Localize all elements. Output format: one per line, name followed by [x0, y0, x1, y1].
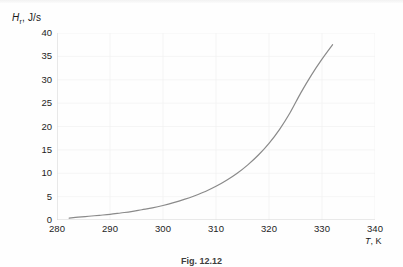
x-tick-label: 330	[305, 224, 339, 234]
y-axis-label: Hr, J/s	[12, 12, 41, 25]
y-tick-label: 10	[26, 168, 52, 178]
x-tick-label: 280	[40, 224, 74, 234]
y-axis-tick-labels: 0510152025303540	[26, 33, 52, 220]
y-tick-label: 30	[26, 75, 52, 85]
y-tick-label: 20	[26, 122, 52, 132]
x-tick-label: 310	[199, 224, 233, 234]
x-tick-label: 320	[252, 224, 286, 234]
y-tick-label: 5	[26, 192, 52, 202]
data-series-line	[69, 45, 332, 218]
y-tick-label: 35	[26, 51, 52, 61]
x-axis-tick-labels: 280290300310320330340	[57, 224, 375, 238]
chart-canvas	[57, 33, 375, 220]
plot-area	[57, 33, 375, 220]
x-tick-label: 300	[146, 224, 180, 234]
figure-container: Hr, J/s 0510152025303540 280290300310320…	[0, 0, 403, 267]
x-axis-unit: , K	[371, 236, 382, 246]
y-tick-label: 25	[26, 98, 52, 108]
page-top-rule	[0, 0, 403, 3]
x-tick-label: 290	[93, 224, 127, 234]
x-axis-label: T, K	[365, 236, 382, 246]
figure-caption: Fig. 12.12	[0, 256, 403, 267]
y-axis-unit: , J/s	[22, 12, 41, 23]
x-tick-label: 340	[358, 224, 392, 234]
gridlines	[57, 33, 375, 220]
y-tick-label: 15	[26, 145, 52, 155]
y-tick-label: 40	[26, 28, 52, 38]
